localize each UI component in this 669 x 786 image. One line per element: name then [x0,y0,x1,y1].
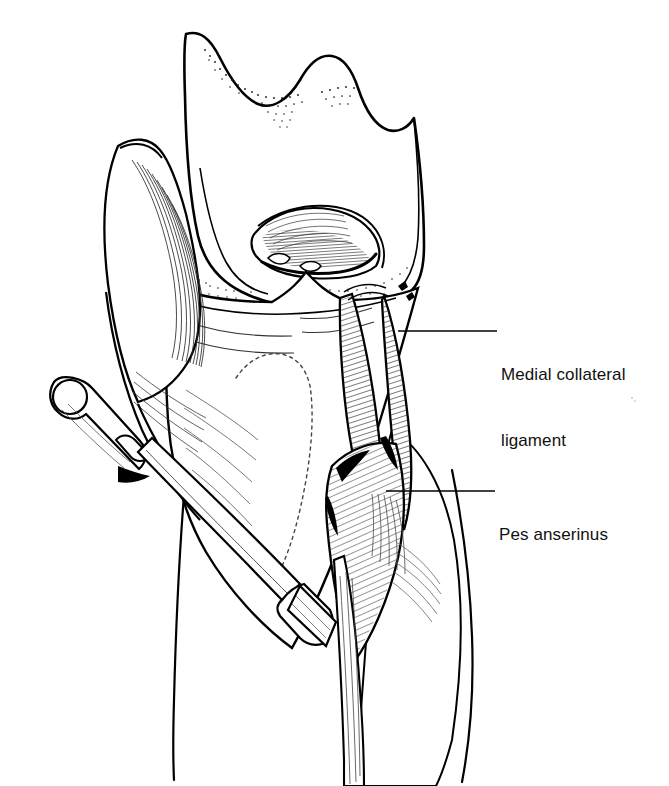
label-medial-collateral-ligament: Medial collateral ligament [501,320,626,496]
label-mcl-line1: Medial collateral [501,364,626,386]
label-pes-anserinus: Pes anserinus [499,480,608,590]
label-pes-line1: Pes anserinus [499,524,608,546]
label-mcl-line2: ligament [501,430,626,452]
anatomical-figure: Medial collateral ligament Pes anserinus [0,0,669,786]
